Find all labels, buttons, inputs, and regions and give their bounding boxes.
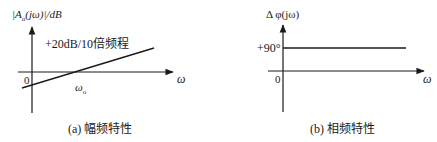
slope-annotation: +20dB/10倍频程 [45, 38, 129, 50]
phase-y-axis-label: Δ φ(jω) [266, 9, 299, 20]
magnitude-origin-label: 0 [24, 75, 30, 86]
phase-origin-label: 0 [275, 74, 281, 85]
phase-caption: (b) 相频特性 [310, 123, 375, 135]
crossing-frequency-label: ωo [75, 82, 86, 96]
magnitude-response-line [22, 48, 154, 88]
omega-symbol: ω [75, 81, 83, 93]
omega-subscript: o [83, 88, 87, 96]
bode-diagram-graphics [0, 0, 437, 142]
y-label-main: |A [12, 8, 22, 20]
magnitude-y-axis-label: |Au(jω)|/dB [12, 9, 62, 23]
y-label-rest: (jω)|/dB [25, 8, 61, 20]
magnitude-x-axis-label: ω [177, 73, 185, 85]
phase-x-axis-label: ω [423, 73, 431, 85]
magnitude-caption: (a) 幅频特性 [68, 123, 132, 135]
phase-level-label: +90° [257, 42, 281, 54]
